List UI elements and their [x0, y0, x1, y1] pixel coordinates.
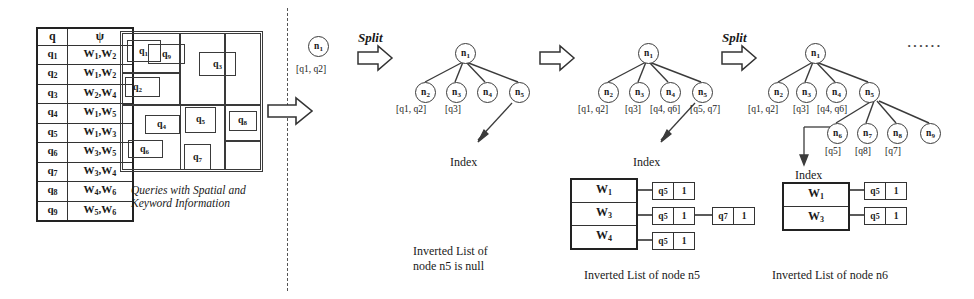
- posting-cell-w4-0: q5 1: [652, 232, 695, 250]
- tree1-node-n1: n1: [455, 43, 476, 64]
- tree3-label-n3: [q3]: [793, 104, 809, 114]
- tree1-list-caption: Inverted List of node n5 is null: [413, 244, 488, 274]
- term-cell: W1: [571, 179, 637, 203]
- term-cell: W1: [783, 183, 849, 207]
- inverted-list-row: W1: [571, 179, 637, 203]
- tree2-label-n4: [q4, q6]: [650, 104, 680, 114]
- tree2-node-n1: n1: [638, 43, 659, 64]
- tree1-label-n3: [q3]: [445, 104, 461, 114]
- continuation-ellipsis: ······: [907, 38, 942, 54]
- inverted-list-table-n6: W1 W3: [782, 182, 850, 231]
- posting-count: 1: [734, 208, 754, 224]
- inverted-list-table-n5: W1 W3 W4: [570, 178, 638, 250]
- posting-count: 1: [674, 233, 694, 249]
- split-arrow-icon-1: [358, 46, 392, 70]
- posting-query-id: q5: [653, 183, 674, 199]
- term-cell: W4: [571, 226, 637, 250]
- tree1-index-arrow: [478, 103, 512, 142]
- tree3-node-n3: n3: [796, 82, 817, 103]
- tree3-label-n7: [q8]: [855, 146, 871, 156]
- posting-query-id: q5: [653, 233, 674, 249]
- tree2-label-n3: [q3]: [625, 104, 641, 114]
- posting-count: 1: [886, 208, 906, 224]
- tree2-node-n4: n4: [660, 82, 681, 103]
- posting-cell-w3-0: q5 1: [652, 207, 695, 225]
- posting-cell-w3-1: q7 1: [712, 207, 755, 225]
- split-arrow-icon-3: [722, 46, 756, 70]
- term-cell: W3: [571, 203, 637, 226]
- inverted-list-links-right: [850, 190, 864, 215]
- tree2-label-n2: [q1, q2]: [578, 104, 608, 114]
- big-arrow-icon: [268, 98, 312, 124]
- tree2-node-n2: n2: [598, 82, 619, 103]
- tree3-index-caption: Index: [795, 168, 822, 183]
- tree1-node-n3: n3: [446, 82, 467, 103]
- tree3-node-n6: n6: [827, 123, 848, 144]
- posting-query-id: q5: [653, 208, 674, 224]
- tree-node-n1-stage0: n1: [308, 36, 329, 57]
- tree3-list-caption: Inverted List of node n6: [772, 268, 888, 283]
- posting-count: 1: [674, 183, 694, 199]
- term-cell: W3: [783, 207, 849, 231]
- tree3-label-n2: [q1, q2]: [748, 104, 778, 114]
- inverted-list-row: W4: [571, 226, 637, 250]
- tree3-node-n8: n8: [887, 123, 908, 144]
- posting-cell-n6-w3-0: q5 1: [864, 207, 907, 225]
- tree1-node-n4: n4: [477, 82, 498, 103]
- posting-cell-w1-0: q5 1: [652, 182, 695, 200]
- tree3-label-n8: [q7]: [885, 146, 901, 156]
- node-label-n1-stage0: [q1, q2]: [296, 64, 326, 74]
- tree2-node-n5: n5: [692, 82, 713, 103]
- tree2-node-n3: n3: [629, 82, 650, 103]
- posting-query-id: q7: [713, 208, 734, 224]
- inverted-list-row: W1: [783, 183, 849, 207]
- tree3-node-n9: n9: [920, 123, 941, 144]
- inverted-list-row: W3: [783, 207, 849, 231]
- posting-count: 1: [886, 183, 906, 199]
- tree3-node-n2: n2: [768, 82, 789, 103]
- tree3-label-n4: [q4, q6]: [817, 104, 847, 114]
- tree2-label-n5: [q5, q7]: [690, 104, 720, 114]
- tree1-edges: [425, 62, 518, 82]
- tree2-list-caption: Inverted List of node n5: [584, 268, 700, 283]
- split-arrow-icon-2: [540, 46, 574, 70]
- tree1-node-n5: n5: [509, 82, 530, 103]
- tree3-node-n4: n4: [826, 82, 847, 103]
- posting-cell-n6-w1-0: q5 1: [864, 182, 907, 200]
- posting-query-id: q5: [865, 183, 886, 199]
- tree1-index-caption: Index: [450, 155, 477, 170]
- split-label-2: Split: [722, 30, 747, 46]
- tree3-node-n5: n5: [859, 82, 880, 103]
- tree2-edges: [608, 62, 701, 82]
- tree3-node-n1: n1: [805, 43, 826, 64]
- tree1-label-n2: [q1, q2]: [396, 104, 426, 114]
- tree3-label-n6: [q5]: [825, 146, 841, 156]
- list-caption-line-1: Inverted List of: [413, 244, 488, 259]
- posting-count: 1: [674, 208, 694, 224]
- tree3-node-n7: n7: [857, 123, 878, 144]
- list-caption-line-2: node n5 is null: [413, 259, 488, 274]
- inverted-list-row: W3: [571, 203, 637, 226]
- tree2-index-caption: Index: [633, 155, 660, 170]
- split-label-1: Split: [358, 30, 383, 46]
- tree1-node-n2: n2: [415, 82, 436, 103]
- posting-query-id: q5: [865, 208, 886, 224]
- figure-root: q ψ q1 W1,W2 q2 W1,W2 q3 W2,W4 q4 W1,W5 …: [0, 0, 974, 299]
